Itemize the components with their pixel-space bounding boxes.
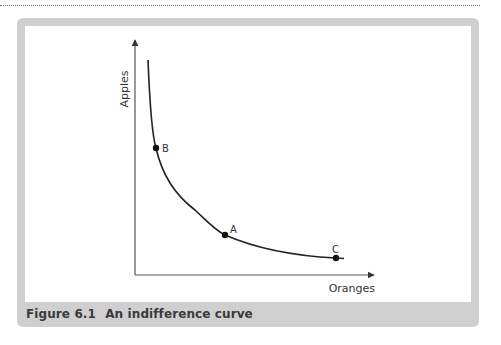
- point-a-marker: [222, 232, 228, 238]
- figure-title: An indifference curve: [105, 307, 253, 321]
- figure-number: Figure 6.1: [26, 307, 96, 321]
- indifference-curve: [148, 60, 344, 259]
- x-axis-title: Oranges: [329, 282, 376, 295]
- point-b-marker: [153, 145, 159, 151]
- point-c-label: C: [332, 244, 339, 255]
- point-b-label: B: [162, 143, 169, 154]
- y-axis-title: Apples: [118, 70, 131, 107]
- point-a-label: A: [230, 224, 237, 235]
- figure-caption: Figure 6.1 An indifference curve: [26, 307, 253, 321]
- point-c-marker: [333, 255, 339, 261]
- indifference-chart: B A C Apples Oranges: [0, 0, 501, 345]
